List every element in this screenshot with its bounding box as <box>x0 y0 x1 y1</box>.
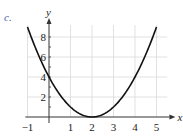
x-tick-label: 1 <box>68 121 74 133</box>
grid-lines <box>28 25 168 117</box>
y-tick-label: 8 <box>41 31 47 43</box>
x-tick-label: 2 <box>89 121 95 133</box>
y-tick-label: 2 <box>41 91 47 103</box>
x-tick-label: −1 <box>22 121 34 133</box>
x-tick-label: 4 <box>132 121 138 133</box>
y-axis-label: y <box>45 6 51 18</box>
x-tick-label: 5 <box>154 121 160 133</box>
x-axis-label: x <box>176 111 182 123</box>
axes <box>25 18 175 123</box>
y-tick-label: 4 <box>41 71 47 83</box>
x-tick-label: 3 <box>111 121 117 133</box>
chart-container: c. −1123452468 x y <box>0 0 183 136</box>
parabola-plot: −1123452468 x y <box>0 0 183 136</box>
